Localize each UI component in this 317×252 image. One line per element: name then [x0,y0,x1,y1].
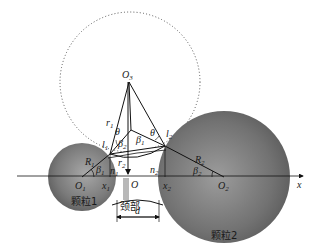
label-particle-1: 颗粒1 [71,195,97,207]
label-d: d [135,205,141,216]
label-particle-2: 颗粒2 [211,229,237,241]
label-r1: r1 [106,117,113,130]
label-l1: l1 [102,139,108,152]
label-beta2-top: β2 [117,138,127,151]
label-x-axis: x [296,179,302,190]
sintering-neck-diagram: O3 r1 θ θ l1 l2 β2 β1 r2 R1 β1 n1 n2 R2 … [0,0,317,252]
label-o3: O3 [122,69,133,82]
label-theta-right: θ [150,127,155,138]
label-theta-left: θ [115,126,120,137]
label-l2: l2 [166,128,173,141]
label-o: O [131,179,138,190]
neck-core [123,178,129,200]
